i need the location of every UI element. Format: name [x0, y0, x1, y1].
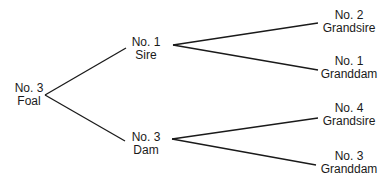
node-role: Foal — [15, 95, 44, 108]
node-role: Sire — [132, 49, 161, 62]
edge-sire-granddam — [173, 45, 318, 70]
node-role: Grandsire — [323, 22, 376, 35]
edge-dam-granddam — [172, 139, 316, 165]
node-dam-granddam: No. 3 Granddam — [321, 150, 378, 176]
edge-dam-grandsire — [172, 118, 318, 139]
node-role: Dam — [132, 144, 161, 157]
node-sire-grandsire: No. 2 Grandsire — [323, 9, 376, 35]
node-dam: No. 3 Dam — [132, 131, 161, 157]
node-role: Granddam — [321, 68, 378, 81]
node-sire: No. 1 Sire — [132, 36, 161, 62]
node-dam-grandsire: No. 4 Grandsire — [323, 102, 376, 128]
edge-sire-grandsire — [173, 23, 318, 45]
node-role: Granddam — [321, 163, 378, 176]
node-sire-granddam: No. 1 Granddam — [321, 55, 378, 81]
edge-foal-dam — [45, 95, 125, 141]
node-role: Grandsire — [323, 115, 376, 128]
edge-foal-sire — [45, 48, 126, 95]
node-foal: No. 3 Foal — [15, 82, 44, 108]
